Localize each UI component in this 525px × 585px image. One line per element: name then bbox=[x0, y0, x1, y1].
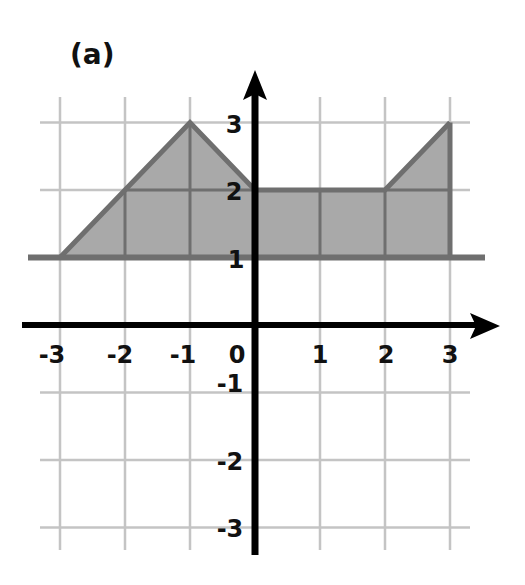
x-tick-label: -2 bbox=[107, 341, 134, 369]
chart: -3-2-10123 321-1-2-3 bbox=[0, 0, 525, 585]
y-tick-label: 1 bbox=[228, 246, 245, 274]
y-tick-label: -1 bbox=[217, 370, 244, 398]
x-tick-label: 3 bbox=[442, 341, 459, 369]
y-tick-label: -3 bbox=[217, 515, 244, 543]
x-tick-labels: -3-2-10123 bbox=[39, 341, 459, 369]
x-tick-label: 2 bbox=[378, 341, 395, 369]
x-tick-label: 1 bbox=[312, 341, 329, 369]
x-tick-label: -3 bbox=[39, 341, 66, 369]
y-tick-label: 3 bbox=[226, 111, 243, 139]
y-tick-label: -2 bbox=[217, 448, 244, 476]
y-tick-label: 2 bbox=[226, 178, 243, 206]
x-tick-label: -1 bbox=[170, 341, 197, 369]
x-tick-label: 0 bbox=[229, 341, 246, 369]
